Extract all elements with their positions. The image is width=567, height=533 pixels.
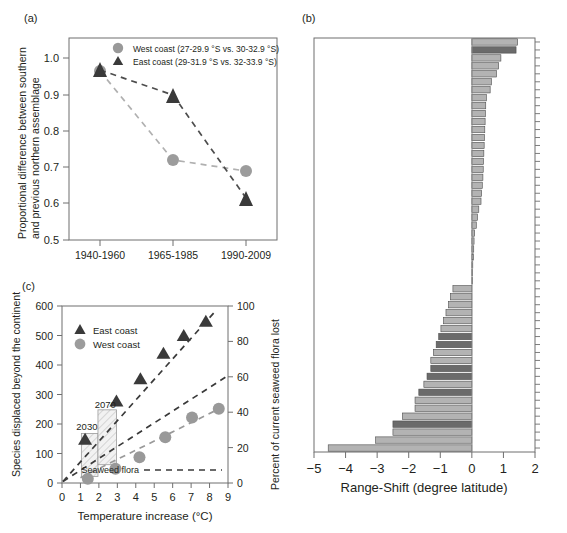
panel-c-ytick-label: 0 [47, 477, 53, 489]
range-shift-bar [472, 182, 482, 188]
range-shift-bar [419, 389, 472, 395]
range-shift-bar [472, 134, 485, 140]
panel-c-y2tick-label: 80 [237, 335, 249, 347]
panel-a-ytick-4: 0.9 [44, 89, 59, 101]
range-shift-bar [472, 102, 486, 108]
panel-c-ytick-label: 300 [35, 389, 53, 401]
range-shift-bar [472, 63, 499, 69]
range-shift-bar [376, 437, 472, 443]
range-shift-bar [415, 397, 472, 403]
panel-c-xtick-label: 5 [151, 491, 157, 503]
panel-c-y2tick-label: 60 [237, 371, 249, 383]
legend-c-east-marker-icon [74, 324, 85, 334]
panel-a-ytick-3: 0.8 [44, 125, 59, 137]
west-coast-point [167, 154, 179, 166]
range-shift-bar [472, 47, 516, 53]
panel-c-west-point [159, 431, 171, 443]
panel-b-y-ticks [535, 42, 540, 448]
panel-a-ytick-1: 0.6 [44, 197, 59, 209]
panel-c-x-ticks: 0123456789 [59, 483, 231, 503]
range-shift-bar [424, 381, 472, 387]
panel-c-xtick-label: 4 [133, 491, 139, 503]
panel-c-east-point [156, 347, 170, 359]
range-shift-bar [433, 349, 472, 355]
range-shift-bar [472, 222, 476, 228]
seaweed-flora-label: Seaweed flora [81, 465, 139, 475]
panel-b-xtick-label: −4 [338, 461, 353, 476]
range-shift-bar [472, 118, 485, 124]
panel-c-west-point [213, 403, 225, 415]
panel-a-series-west [94, 65, 252, 177]
panel-a: (a) 0.5 0.6 0.7 0.8 0.9 1.0 1940-1960 19… [0, 0, 292, 278]
range-shift-bar [472, 95, 487, 101]
range-shift-bar [472, 158, 484, 164]
panel-b-xtick-label: −1 [433, 461, 448, 476]
panel-c-xtick-label: 2 [96, 491, 102, 503]
panel-a-x-axis: 1940-1960 1965-1985 1990-2009 [75, 240, 271, 261]
range-shift-bar [472, 87, 490, 93]
range-shift-bar [328, 445, 472, 451]
range-shift-bar [415, 405, 472, 411]
range-shift-bar [393, 429, 472, 435]
panel-a-legend: West coast (27-29.9 °S vs. 30-32.9 °S) E… [113, 43, 279, 67]
panel-c-west-point [186, 412, 198, 424]
panel-b-xtick-label: 2 [531, 461, 538, 476]
panel-a-label: (a) [24, 12, 37, 24]
panel-c-xtick-label: 6 [170, 491, 176, 503]
range-shift-bar [472, 55, 501, 61]
panel-c-year-annotation: 2070 [95, 399, 116, 410]
panel-b-xtick-label: −2 [401, 461, 416, 476]
legend-c-west-label: West coast [93, 339, 140, 350]
panel-c-east-point [133, 372, 147, 384]
panel-b-svg: (b) −5−4−3−2−1012 Range-Shift (degree la… [292, 0, 567, 500]
panel-c-x-axis-title: Temperature increase (°C) [78, 510, 213, 522]
panel-c-year-annotation: 2030 [76, 421, 97, 432]
panel-b-label: (b) [302, 12, 315, 24]
panel-c-ytick-label: 400 [35, 359, 53, 371]
range-shift-bar [472, 142, 484, 148]
range-shift-bar [472, 198, 481, 204]
range-shift-bar [472, 126, 485, 132]
range-shift-bar [472, 110, 486, 116]
range-shift-bar [393, 421, 472, 427]
range-shift-bar [402, 413, 471, 419]
range-shift-bar [453, 286, 472, 292]
panel-a-series-east [93, 62, 253, 206]
panel-c-xtick-label: 9 [225, 491, 231, 503]
panel-c-y2-ticks: 020406080100 [228, 300, 255, 489]
panel-c-xtick-label: 1 [77, 491, 83, 503]
panel-c-svg: (c) 0100200300400500600 020406080100 012… [0, 272, 292, 533]
panel-c-xtick-label: 8 [206, 491, 212, 503]
panel-c-y-axis-title: Species displaced beyond the continent [10, 292, 22, 477]
range-shift-bar [472, 206, 479, 212]
legend-east-marker-icon [113, 56, 123, 65]
range-shift-bar [472, 174, 483, 180]
panel-b-bars [328, 39, 517, 451]
panel-c-y2tick-label: 40 [237, 406, 249, 418]
panel-a-y-axis-title: Proportional difference between southern… [16, 47, 41, 239]
east-coast-point [166, 88, 180, 103]
legend-west-marker-icon [113, 43, 123, 53]
panel-c-label: (c) [22, 280, 35, 292]
east-coast-point [239, 191, 253, 206]
panel-b: (b) −5−4−3−2−1012 Range-Shift (degree la… [292, 0, 567, 500]
panel-c-y2tick-label: 100 [237, 300, 255, 312]
panel-a-ytick-5: 1.0 [44, 52, 59, 64]
panel-c-xtick-label: 0 [59, 491, 65, 503]
range-shift-bar [439, 333, 472, 339]
panel-a-xtick-0: 1940-1960 [75, 249, 125, 261]
range-shift-bar [472, 39, 518, 45]
panel-a-xtick-1: 1965-1985 [148, 249, 198, 261]
west-coast-point [240, 165, 252, 177]
panel-c-y2tick-label: 20 [237, 442, 249, 454]
svg-text:and previous northern assembla: and previous northern assemblage [29, 77, 41, 239]
range-shift-bar [441, 325, 472, 331]
panel-c-ytick-label: 500 [35, 330, 53, 342]
panel-c-xtick-label: 7 [188, 491, 194, 503]
panel-b-xtick-label: 1 [500, 461, 507, 476]
range-shift-bar [472, 190, 482, 196]
panel-b-xtick-label: −5 [307, 461, 322, 476]
panel-c-west-point [133, 451, 145, 463]
range-shift-bar [472, 214, 478, 220]
panel-a-svg: (a) 0.5 0.6 0.7 0.8 0.9 1.0 1940-1960 19… [0, 0, 292, 278]
